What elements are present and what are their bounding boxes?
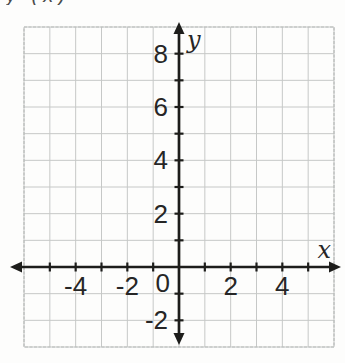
graph-figure: y (x) -4-2248642-20 xy — [0, 0, 345, 363]
x-tick-label: -2 — [116, 271, 139, 301]
axis-letters: xy — [186, 26, 331, 264]
y-tick-label: 6 — [154, 92, 168, 122]
origin-label: 0 — [156, 268, 170, 298]
y-tick-label: 2 — [154, 199, 168, 229]
y-axis-label: y — [186, 26, 201, 54]
y-tick-label: 4 — [154, 145, 168, 175]
y-axis-arrow-down — [174, 333, 185, 345]
coordinate-plane: -4-2248642-20 xy — [0, 0, 345, 363]
x-tick-label: -4 — [64, 271, 87, 301]
y-tick-label: -2 — [145, 305, 168, 335]
x-axis-label: x — [317, 236, 331, 264]
x-axis-arrow-left — [10, 262, 22, 273]
y-tick-label: 8 — [154, 39, 168, 69]
y-axis — [174, 22, 185, 345]
x-tick-label: 2 — [223, 271, 237, 301]
x-axis — [10, 262, 341, 273]
x-tick-label: 4 — [275, 271, 289, 301]
y-axis-arrow-up — [174, 22, 185, 34]
